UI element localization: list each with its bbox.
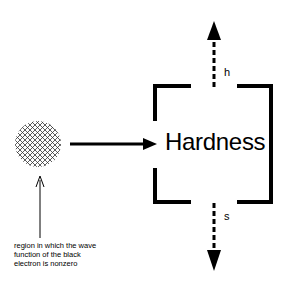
- caption: region in which the wave function of the…: [14, 241, 154, 268]
- hatched-circle: [15, 121, 61, 167]
- hardness-label: Hardness: [165, 128, 265, 156]
- h-label: h: [224, 66, 230, 78]
- arrow-down-s: [207, 203, 221, 271]
- caption-line: region in which the wave: [14, 241, 154, 250]
- caption-arrow: [36, 176, 44, 238]
- s-label: s: [224, 210, 230, 222]
- caption-line: function of the black: [14, 250, 154, 259]
- caption-line: electron is nonzero: [14, 259, 154, 268]
- arrow-up-h: [207, 21, 221, 87]
- input-arrow: [70, 138, 157, 150]
